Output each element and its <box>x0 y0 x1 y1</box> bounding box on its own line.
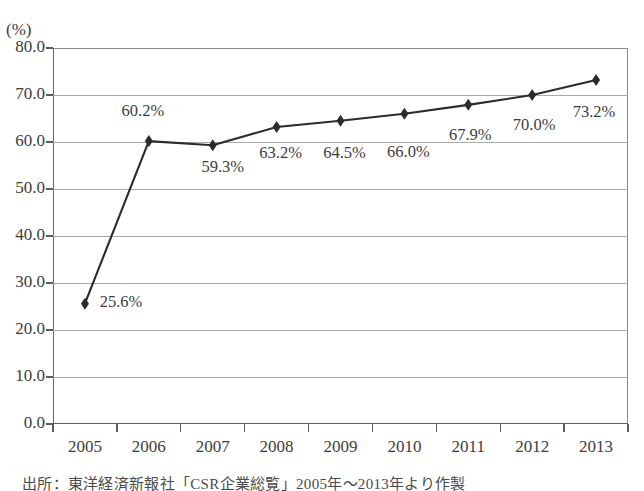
y-axis-tick-mark <box>46 376 53 377</box>
data-point-label: 60.2% <box>122 101 165 121</box>
y-axis-tick-label: 40.0 <box>0 225 45 245</box>
x-axis-tick-mark <box>436 424 437 432</box>
x-axis-tick-label: 2005 <box>68 437 102 457</box>
x-axis-tick-label: 2006 <box>132 437 166 457</box>
gridline <box>53 95 628 96</box>
y-axis-tick-mark <box>46 282 53 283</box>
gridline <box>53 330 628 331</box>
y-axis-tick-label: 0.0 <box>0 413 45 433</box>
x-axis-tick-mark <box>563 424 564 432</box>
y-axis-tick-mark <box>46 329 53 330</box>
y-axis-tick-label: 60.0 <box>0 131 45 151</box>
gridline <box>53 236 628 237</box>
data-point-label: 66.0% <box>387 142 430 162</box>
y-axis-tick-label: 70.0 <box>0 84 45 104</box>
data-point-label: 63.2% <box>259 143 302 163</box>
data-point-label: 59.3% <box>201 157 244 177</box>
y-axis-tick-label: 10.0 <box>0 366 45 386</box>
x-axis-tick-mark <box>116 424 117 432</box>
y-axis-tick-mark <box>46 141 53 142</box>
x-axis-tick-label: 2011 <box>452 437 485 457</box>
source-caption: 出所：東洋経済新報社「CSR企業総覧」2005年～2013年より作製 <box>22 472 466 491</box>
x-axis-tick-label: 2013 <box>579 437 613 457</box>
data-point-label: 73.2% <box>573 102 616 122</box>
gridline <box>53 283 628 284</box>
y-axis-tick-label: 50.0 <box>0 178 45 198</box>
y-axis-tick-label: 80.0 <box>0 37 45 57</box>
x-axis-tick-label: 2007 <box>196 437 230 457</box>
y-axis-tick-mark <box>46 188 53 189</box>
data-point-label: 70.0% <box>513 115 556 135</box>
x-axis-tick-label: 2010 <box>387 437 421 457</box>
y-axis-tick-label: 20.0 <box>0 319 45 339</box>
x-axis-tick-label: 2012 <box>515 437 549 457</box>
data-point-label: 64.5% <box>323 143 366 163</box>
x-axis-tick-label: 2008 <box>260 437 294 457</box>
x-axis-tick-mark <box>244 424 245 432</box>
y-axis-tick-mark <box>46 47 53 48</box>
x-axis-tick-mark <box>500 424 501 432</box>
gridline <box>53 189 628 190</box>
x-axis-tick-mark <box>372 424 373 432</box>
data-point-label: 67.9% <box>449 125 492 145</box>
y-axis-tick-mark <box>46 94 53 95</box>
y-axis-tick-mark <box>46 235 53 236</box>
y-axis-tick-label: 30.0 <box>0 272 45 292</box>
x-axis-tick-mark <box>52 424 53 432</box>
data-point-label: 25.6% <box>100 292 143 312</box>
chart-figure: (%) 0.010.020.030.040.050.060.070.080.0 … <box>0 0 644 491</box>
x-axis-tick-label: 2009 <box>324 437 358 457</box>
x-axis-tick-mark <box>180 424 181 432</box>
gridline <box>53 377 628 378</box>
x-axis-tick-mark <box>308 424 309 432</box>
x-axis-tick-mark <box>627 424 628 432</box>
